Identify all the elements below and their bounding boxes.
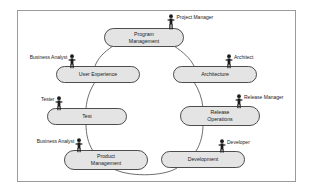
node-label-line1: User Experience xyxy=(79,71,117,77)
actor-label: Business Analyst xyxy=(37,138,75,144)
diagram-canvas: Program Management User Experience Archi… xyxy=(0,0,313,192)
node-label-line2: Management xyxy=(91,160,122,166)
actor-label: Business Analyst xyxy=(30,54,68,60)
node-user-experience[interactable]: User Experience xyxy=(57,67,140,83)
node-development[interactable]: Development xyxy=(162,152,245,168)
node-label-line2: Management xyxy=(129,38,160,44)
actor-label: Project Manager xyxy=(177,14,214,20)
actor-label: Release Manager xyxy=(244,94,284,100)
node-label-line1: Architecture xyxy=(201,71,229,77)
node-test[interactable]: Test xyxy=(48,109,127,125)
node-program-management[interactable]: Program Management xyxy=(105,29,184,47)
node-product-management[interactable]: Product Management xyxy=(65,151,148,170)
node-label-line2: Operations xyxy=(207,116,233,122)
node-label-line1: Program xyxy=(134,31,154,37)
node-architecture[interactable]: Architecture xyxy=(174,67,257,83)
ring-diagram: Program Management User Experience Archi… xyxy=(0,0,313,192)
node-release-operations[interactable]: Release Operations xyxy=(181,107,260,126)
actor-label: Tester xyxy=(41,96,55,102)
actor-label: Developer xyxy=(227,139,250,145)
node-label-line1: Test xyxy=(82,113,92,119)
node-label-line1: Release xyxy=(210,109,229,115)
node-label-line1: Development xyxy=(188,156,219,162)
node-label-line1: Product xyxy=(97,153,115,159)
actor-label: Architect xyxy=(234,54,254,60)
